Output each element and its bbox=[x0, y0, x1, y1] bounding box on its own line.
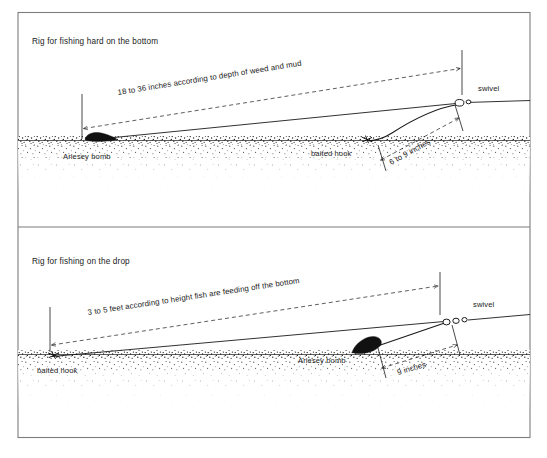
label-baited-hook-1: baited hook bbox=[311, 149, 351, 158]
dimension-label-mainline-1: 18 to 36 inches according to depth of we… bbox=[117, 59, 302, 97]
dimension-label-mainline-2: 3 to 5 feet according to height fish are… bbox=[87, 276, 300, 317]
panel-on-the-drop: Rig for fishing on the drop 3 to 5 feet … bbox=[18, 257, 530, 412]
bomb-link-line-2 bbox=[379, 323, 446, 346]
fishing-rig-figure: Rig for fishing hard on the bottom 18 to… bbox=[0, 0, 547, 458]
label-arlesey-bomb-1: Arlesey bomb bbox=[63, 152, 111, 161]
swivel-1 bbox=[455, 100, 471, 107]
river-bed-texture-2 bbox=[18, 350, 530, 412]
label-arlesey-bomb-2: Arlesey bomb bbox=[298, 356, 346, 365]
main-line-1 bbox=[466, 101, 530, 103]
leger-link-line-1 bbox=[101, 103, 459, 139]
panel-title-on-the-drop: Rig for fishing on the drop bbox=[32, 257, 130, 266]
label-baited-hook-2: baited hook bbox=[37, 366, 77, 375]
river-bed-texture-1 bbox=[18, 136, 530, 198]
panel-title-hard-bottom: Rig for fishing hard on the bottom bbox=[32, 37, 158, 46]
label-swivel-2: swivel bbox=[473, 300, 494, 309]
swivel-2 bbox=[443, 318, 467, 325]
main-line-2 bbox=[468, 315, 530, 321]
label-swivel-1: swivel bbox=[478, 84, 499, 93]
panel-hard-bottom: Rig for fishing hard on the bottom 18 to… bbox=[18, 37, 530, 198]
hook-link-line-1 bbox=[369, 105, 458, 141]
arlesey-bomb-1 bbox=[85, 132, 117, 141]
